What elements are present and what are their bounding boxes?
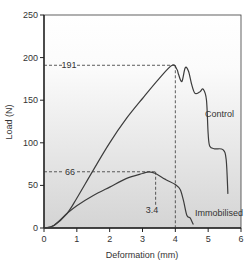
y-tick-label: 0 [33, 223, 38, 233]
y-tick-label: 100 [23, 138, 38, 148]
x-tick-label: 0 [41, 234, 46, 244]
control-series-label: Control [205, 109, 234, 119]
x-tick-label: 5 [206, 234, 211, 244]
immobilised-series-label: Immobilised [195, 208, 243, 218]
x-axis-label: Deformation (mm) [106, 250, 179, 260]
x-axis-ticks: 0123456 [41, 228, 243, 244]
x-tick-label: 1 [74, 234, 79, 244]
y-tick-label: 250 [23, 10, 38, 20]
y-tick-label: 200 [23, 53, 38, 63]
y-tick-label: 150 [23, 95, 38, 105]
plot-area [44, 15, 241, 228]
y-tick-label: 50 [28, 180, 38, 190]
load-deformation-chart: 050100150200250 0123456 Load (N) Deforma… [0, 0, 252, 271]
x-tick-label: 3 [140, 234, 145, 244]
peak-immobilised-deformation: 3.4 [146, 205, 159, 215]
x-tick-label: 6 [238, 234, 243, 244]
y-axis-ticks: 050100150200250 [23, 10, 44, 233]
x-tick-label: 4 [173, 234, 178, 244]
peak-immobilised-value: 66 [65, 167, 75, 177]
y-axis-label: Load (N) [4, 104, 14, 139]
peak-control-value: 191 [61, 60, 76, 70]
x-tick-label: 2 [107, 234, 112, 244]
